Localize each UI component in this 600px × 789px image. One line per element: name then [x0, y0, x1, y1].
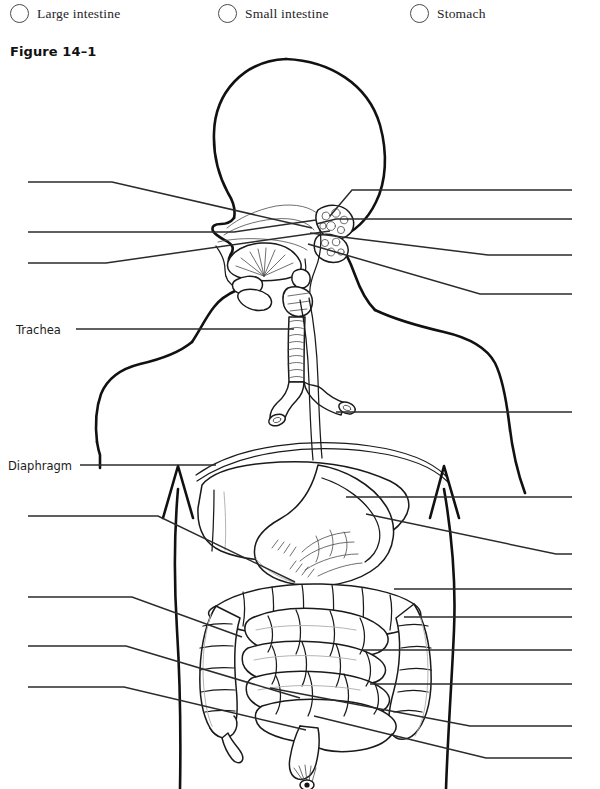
epiglottis: [292, 269, 310, 288]
shoulder-right-arm: [375, 310, 525, 493]
blank-right-7: [366, 514, 572, 554]
blank-right-3: [310, 233, 572, 255]
answer-option-label: Small intestine: [245, 6, 329, 22]
leader-lines-filled: [76, 329, 294, 465]
blank-right-1: [330, 190, 572, 216]
answer-bubble-icon[interactable]: [410, 4, 429, 23]
shoulder-left: [96, 342, 192, 442]
arm-left: [97, 442, 100, 468]
answer-options-bar: Large intestine Small intestine Stomach: [0, 0, 600, 30]
head-outline-left: [214, 59, 286, 218]
answer-option-small-intestine[interactable]: Small intestine: [218, 4, 329, 23]
submandibular-gland: [238, 289, 272, 310]
filled-answer-diaphragm[interactable]: Diaphragm: [8, 459, 72, 473]
figure-illustration: .hv { fill:none; stroke:#111; stroke-wid…: [0, 30, 600, 789]
appendix: [222, 733, 243, 763]
torso-right-side: [444, 489, 455, 789]
nasal-cavity-roof: [227, 205, 320, 228]
filled-answer-trachea[interactable]: Trachea: [16, 323, 61, 337]
small-intestine: [242, 608, 396, 744]
answer-option-label: Stomach: [437, 6, 486, 22]
blank-left-1: [28, 182, 312, 228]
blank-left-2: [28, 220, 316, 232]
answer-option-stomach[interactable]: Stomach: [410, 4, 486, 23]
answer-bubble-icon[interactable]: [10, 4, 29, 23]
answer-option-label: Large intestine: [37, 6, 120, 22]
anal-opening: [304, 782, 309, 787]
answer-bubble-icon[interactable]: [218, 4, 237, 23]
answer-option-large-intestine[interactable]: Large intestine: [10, 4, 120, 23]
torso-left-side: [175, 489, 181, 789]
